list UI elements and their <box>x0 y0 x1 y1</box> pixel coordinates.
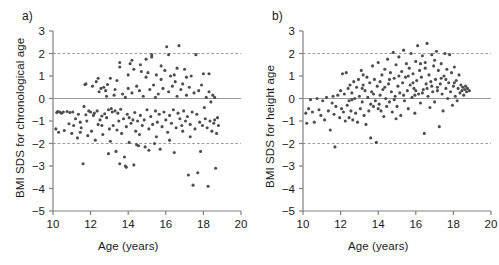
data-point <box>454 95 457 98</box>
data-point <box>422 88 425 91</box>
x-tick-label: 18 <box>197 218 210 230</box>
data-point <box>397 74 400 77</box>
data-point <box>421 54 424 57</box>
data-point <box>167 90 170 93</box>
data-point <box>377 107 380 110</box>
data-point <box>215 132 218 135</box>
data-point <box>405 62 408 65</box>
data-point <box>207 90 210 93</box>
data-point <box>411 81 414 84</box>
data-point <box>201 124 204 127</box>
data-point <box>144 145 147 148</box>
data-point <box>121 92 124 95</box>
data-point <box>353 97 356 100</box>
y-tick-label: 3 <box>289 25 295 37</box>
data-point <box>439 82 442 85</box>
data-point <box>429 80 432 83</box>
data-point <box>138 133 141 136</box>
data-point <box>395 117 398 120</box>
x-tick-label: 20 <box>235 218 248 230</box>
data-point <box>97 77 100 80</box>
data-point <box>187 173 190 176</box>
data-point <box>77 113 80 116</box>
data-point <box>457 87 460 90</box>
y-tick-label: 2 <box>39 48 45 60</box>
data-point <box>72 124 75 127</box>
data-point <box>160 64 163 67</box>
data-point <box>145 76 148 79</box>
data-point <box>413 112 416 115</box>
data-point <box>157 92 160 95</box>
data-point <box>82 162 85 165</box>
data-point <box>349 109 352 112</box>
data-point <box>426 87 429 90</box>
data-point <box>140 70 143 73</box>
data-point <box>305 122 308 125</box>
data-point <box>102 86 105 89</box>
data-point <box>192 91 195 94</box>
data-point <box>174 80 177 83</box>
data-point <box>167 53 170 56</box>
data-point <box>195 113 198 116</box>
data-point <box>163 69 166 72</box>
data-point <box>156 121 159 124</box>
data-point <box>449 90 452 93</box>
data-point <box>145 58 148 61</box>
data-point <box>397 55 400 58</box>
data-point <box>116 112 119 115</box>
data-point <box>105 116 108 119</box>
data-point <box>419 62 422 65</box>
data-point <box>406 89 409 92</box>
data-point <box>387 82 390 85</box>
y-tick-label: −2 <box>282 138 295 150</box>
data-point <box>147 127 150 130</box>
data-point <box>100 115 103 118</box>
data-point <box>431 90 434 93</box>
data-point <box>173 73 176 76</box>
data-point <box>423 132 426 135</box>
data-point <box>400 70 403 73</box>
data-point <box>395 63 398 66</box>
y-tick-label: −3 <box>32 160 45 172</box>
data-point <box>334 105 337 108</box>
data-point <box>333 145 336 148</box>
data-point <box>172 108 175 111</box>
data-point <box>133 111 136 114</box>
data-point <box>130 91 133 94</box>
x-tick-label: 10 <box>297 218 310 230</box>
data-point <box>379 80 382 83</box>
data-point <box>460 89 463 92</box>
y-tick-label: −5 <box>282 205 295 217</box>
data-point <box>185 76 188 79</box>
data-point <box>436 86 439 89</box>
data-point <box>74 117 77 120</box>
data-point <box>376 85 379 88</box>
data-point <box>350 91 353 94</box>
data-point <box>438 125 441 128</box>
data-point <box>114 150 117 153</box>
data-point <box>416 44 419 47</box>
data-point <box>142 95 145 98</box>
x-tick-label: 14 <box>122 218 135 230</box>
data-point <box>181 130 184 133</box>
data-point <box>192 184 195 187</box>
data-point <box>107 108 110 111</box>
data-point <box>155 135 158 138</box>
data-point <box>384 97 387 100</box>
data-point <box>430 85 433 88</box>
data-point <box>159 148 162 151</box>
data-point <box>355 86 358 89</box>
data-point <box>96 109 99 112</box>
data-point <box>165 45 168 48</box>
data-point <box>168 114 171 117</box>
data-point <box>350 98 353 101</box>
x-tick-label: 12 <box>84 218 97 230</box>
data-point <box>414 60 417 63</box>
data-point <box>97 123 100 126</box>
data-point <box>410 96 413 99</box>
data-point <box>365 76 368 79</box>
data-point <box>175 126 178 129</box>
data-point <box>362 73 365 76</box>
data-point <box>207 72 210 75</box>
data-point <box>202 72 205 75</box>
